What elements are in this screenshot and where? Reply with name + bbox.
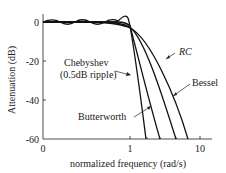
bessel-label: Bessel xyxy=(192,77,218,88)
y-tick-label-20: -20 xyxy=(26,56,39,67)
bessel-arrowhead xyxy=(173,92,177,96)
butterworth-arrowhead xyxy=(147,106,151,110)
butterworth-label: Butterworth xyxy=(78,111,126,122)
x-axis-title: normalized frequency (rad/s) xyxy=(70,158,186,170)
y-tick-label-40: -40 xyxy=(26,95,39,106)
rc-label: RC xyxy=(178,46,192,57)
chebyshev-ripple-label: (0.5dB ripple) xyxy=(60,69,117,81)
y-tick-label-60: -60 xyxy=(26,134,39,145)
x-tick-label-1: 1 xyxy=(128,143,133,154)
filter-response-chart: 0 -20 -40 -60 0 1 10 Attenuation (dB) no… xyxy=(0,0,226,173)
chebyshev-arrowhead xyxy=(126,72,131,76)
y-tick-label-0: 0 xyxy=(34,17,39,28)
chebyshev-label: Chebyshev xyxy=(64,57,108,68)
rc-arrowhead xyxy=(166,55,170,59)
x-tick-label-0: 0 xyxy=(41,143,46,154)
x-tick-label-10: 10 xyxy=(195,143,205,154)
y-axis-title: Attenuation (dB) xyxy=(6,46,18,114)
